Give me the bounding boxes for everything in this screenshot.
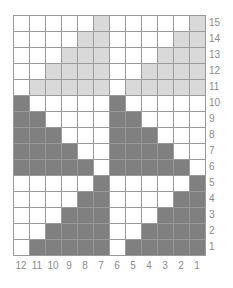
grid-cell — [174, 160, 190, 176]
grid-cell — [126, 208, 142, 224]
grid-cell — [46, 80, 62, 96]
grid-cell — [30, 160, 46, 176]
grid-cell — [78, 64, 94, 80]
grid-cell — [174, 80, 190, 96]
grid-cell — [14, 128, 30, 144]
column-label: 6 — [109, 258, 125, 274]
grid-cell — [110, 208, 126, 224]
grid-cell — [158, 16, 174, 32]
row-label: 10 — [209, 95, 231, 111]
grid-cell — [94, 160, 110, 176]
grid-cell — [190, 32, 206, 48]
row-label: 4 — [209, 191, 231, 207]
row-label: 13 — [209, 47, 231, 63]
grid-cell — [190, 48, 206, 64]
grid-cell — [158, 240, 174, 256]
grid-cell — [78, 16, 94, 32]
row-label: 7 — [209, 143, 231, 159]
grid-cell — [14, 32, 30, 48]
grid-cell — [78, 32, 94, 48]
grid-cell — [190, 160, 206, 176]
grid-cell — [14, 64, 30, 80]
row-axis-labels: 151413121110987654321 — [209, 15, 231, 255]
grid-cell — [174, 64, 190, 80]
grid-cell — [190, 128, 206, 144]
grid-cell — [94, 112, 110, 128]
grid-cell — [190, 80, 206, 96]
column-label: 7 — [93, 258, 109, 274]
grid-cell — [78, 144, 94, 160]
grid-cell — [30, 176, 46, 192]
grid-cell — [14, 176, 30, 192]
grid-cell — [46, 32, 62, 48]
grid-cell — [158, 32, 174, 48]
grid-cell — [62, 64, 78, 80]
grid-cell — [142, 240, 158, 256]
grid-cell — [46, 48, 62, 64]
row-label: 11 — [209, 79, 231, 95]
grid-cell — [14, 80, 30, 96]
grid-cell — [30, 48, 46, 64]
grid-cell — [94, 32, 110, 48]
grid-cell — [110, 144, 126, 160]
grid-cell — [110, 176, 126, 192]
grid-cell — [190, 192, 206, 208]
grid-cell — [94, 48, 110, 64]
grid-cell — [142, 160, 158, 176]
grid-cell — [110, 240, 126, 256]
grid-cell — [158, 224, 174, 240]
grid-cell — [126, 160, 142, 176]
grid-cell — [142, 80, 158, 96]
row-label: 15 — [209, 15, 231, 31]
grid-cell — [110, 112, 126, 128]
grid-cell — [78, 80, 94, 96]
grid-cell — [190, 240, 206, 256]
grid-cell — [46, 224, 62, 240]
grid-cell — [110, 96, 126, 112]
grid-cell — [174, 208, 190, 224]
grid-cell — [158, 48, 174, 64]
column-label: 9 — [61, 258, 77, 274]
grid-cell — [110, 192, 126, 208]
grid-cell — [78, 224, 94, 240]
row-label: 5 — [209, 175, 231, 191]
grid-cell — [126, 32, 142, 48]
grid-cell — [142, 144, 158, 160]
grid-cell — [62, 144, 78, 160]
grid-cell — [78, 192, 94, 208]
grid-cell — [30, 96, 46, 112]
grid-cell — [190, 96, 206, 112]
grid-cell — [110, 48, 126, 64]
grid-cell — [126, 96, 142, 112]
grid-cell — [174, 192, 190, 208]
grid-cell — [78, 176, 94, 192]
grid-cell — [62, 192, 78, 208]
grid-cell — [94, 176, 110, 192]
grid-cell — [126, 224, 142, 240]
grid-cell — [110, 16, 126, 32]
grid-cell — [62, 48, 78, 64]
column-label: 11 — [29, 258, 45, 274]
grid-cell — [190, 16, 206, 32]
grid-cell — [46, 208, 62, 224]
grid-cell — [142, 32, 158, 48]
grid-cell — [14, 144, 30, 160]
grid-cell — [14, 208, 30, 224]
pattern-grid — [13, 15, 206, 256]
grid-cell — [190, 208, 206, 224]
grid-cell — [110, 64, 126, 80]
grid-cell — [62, 224, 78, 240]
grid-cell — [158, 176, 174, 192]
grid-cell — [14, 48, 30, 64]
grid-cell — [30, 16, 46, 32]
grid-cell — [110, 224, 126, 240]
grid-cell — [46, 160, 62, 176]
column-label: 10 — [45, 258, 61, 274]
grid-cell — [142, 128, 158, 144]
grid-cell — [14, 112, 30, 128]
grid-cell — [46, 240, 62, 256]
column-label: 8 — [77, 258, 93, 274]
grid-cell — [94, 192, 110, 208]
column-label: 1 — [189, 258, 205, 274]
row-label: 3 — [209, 207, 231, 223]
